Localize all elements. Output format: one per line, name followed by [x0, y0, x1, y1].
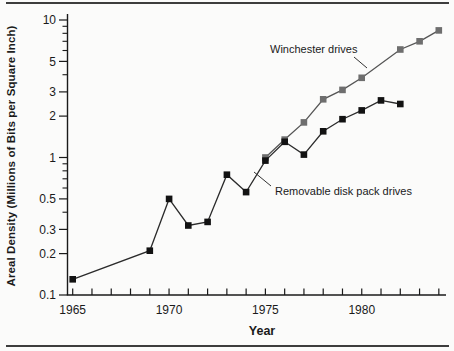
x-tick-label-1965: 1965 [59, 303, 86, 317]
x-tick-label-1980: 1980 [348, 303, 375, 317]
series-marker-removable-disk-pack-drives-1973 [224, 171, 231, 178]
chart-generated-content: 1053210.50.30.20.11965197019751980Winche… [39, 13, 446, 316]
series-marker-removable-disk-pack-drives-1974 [243, 189, 250, 196]
series-marker-winchester-drives-1983 [416, 38, 423, 45]
series-marker-removable-disk-pack-drives-1965 [69, 276, 76, 283]
series-marker-winchester-drives-1984 [436, 27, 443, 34]
x-tick-label-1970: 1970 [156, 303, 183, 317]
y-tick-label-1: 1 [49, 151, 56, 165]
series-marker-winchester-drives-1982 [397, 46, 404, 53]
y-tick-label-0-3: 0.3 [39, 223, 56, 237]
y-tick-label-5: 5 [49, 55, 56, 69]
y-tick-label-0-2: 0.2 [39, 247, 56, 261]
series-marker-removable-disk-pack-drives-1982 [397, 101, 404, 108]
y-axis-title: Areal Density (Millions of Bits per Squa… [5, 25, 17, 286]
x-axis-title: Year [249, 324, 276, 338]
series-marker-removable-disk-pack-drives-1970 [166, 196, 173, 203]
series-marker-removable-disk-pack-drives-1979 [339, 116, 346, 123]
y-tick-label-0-1: 0.1 [39, 288, 56, 302]
series-marker-removable-disk-pack-drives-1980 [358, 107, 365, 114]
series-marker-removable-disk-pack-drives-1972 [204, 219, 211, 226]
y-tick-label-0-5: 0.5 [39, 192, 56, 206]
series-marker-removable-disk-pack-drives-1978 [320, 128, 327, 135]
series-marker-removable-disk-pack-drives-1977 [301, 151, 308, 158]
areal-density-chart: Areal Density (Millions of Bits per Squa… [0, 0, 454, 351]
annotation-label-removable-disk-pack-drives: Removable disk pack drives [275, 185, 412, 197]
series-marker-winchester-drives-1980 [358, 75, 365, 82]
figure-page: Areal Density (Millions of Bits per Squa… [0, 0, 454, 351]
series-marker-removable-disk-pack-drives-1981 [378, 97, 385, 104]
series-marker-winchester-drives-1978 [320, 96, 327, 103]
series-marker-removable-disk-pack-drives-1976 [281, 139, 288, 146]
x-tick-label-1975: 1975 [252, 303, 279, 317]
y-tick-label-3: 3 [49, 85, 56, 99]
series-marker-winchester-drives-1977 [301, 119, 308, 126]
series-marker-removable-disk-pack-drives-1969 [147, 247, 154, 254]
y-tick-label-2: 2 [49, 109, 56, 123]
annotation-pointer-winchester-drives [354, 57, 367, 68]
annotation-label-winchester-drives: Winchester drives [270, 43, 358, 55]
series-marker-removable-disk-pack-drives-1971 [185, 222, 192, 229]
y-tick-label-10: 10 [43, 13, 57, 27]
annotation-pointer-removable-disk-pack-drives [254, 172, 271, 186]
series-marker-winchester-drives-1979 [339, 87, 346, 94]
series-marker-removable-disk-pack-drives-1975 [262, 157, 269, 164]
